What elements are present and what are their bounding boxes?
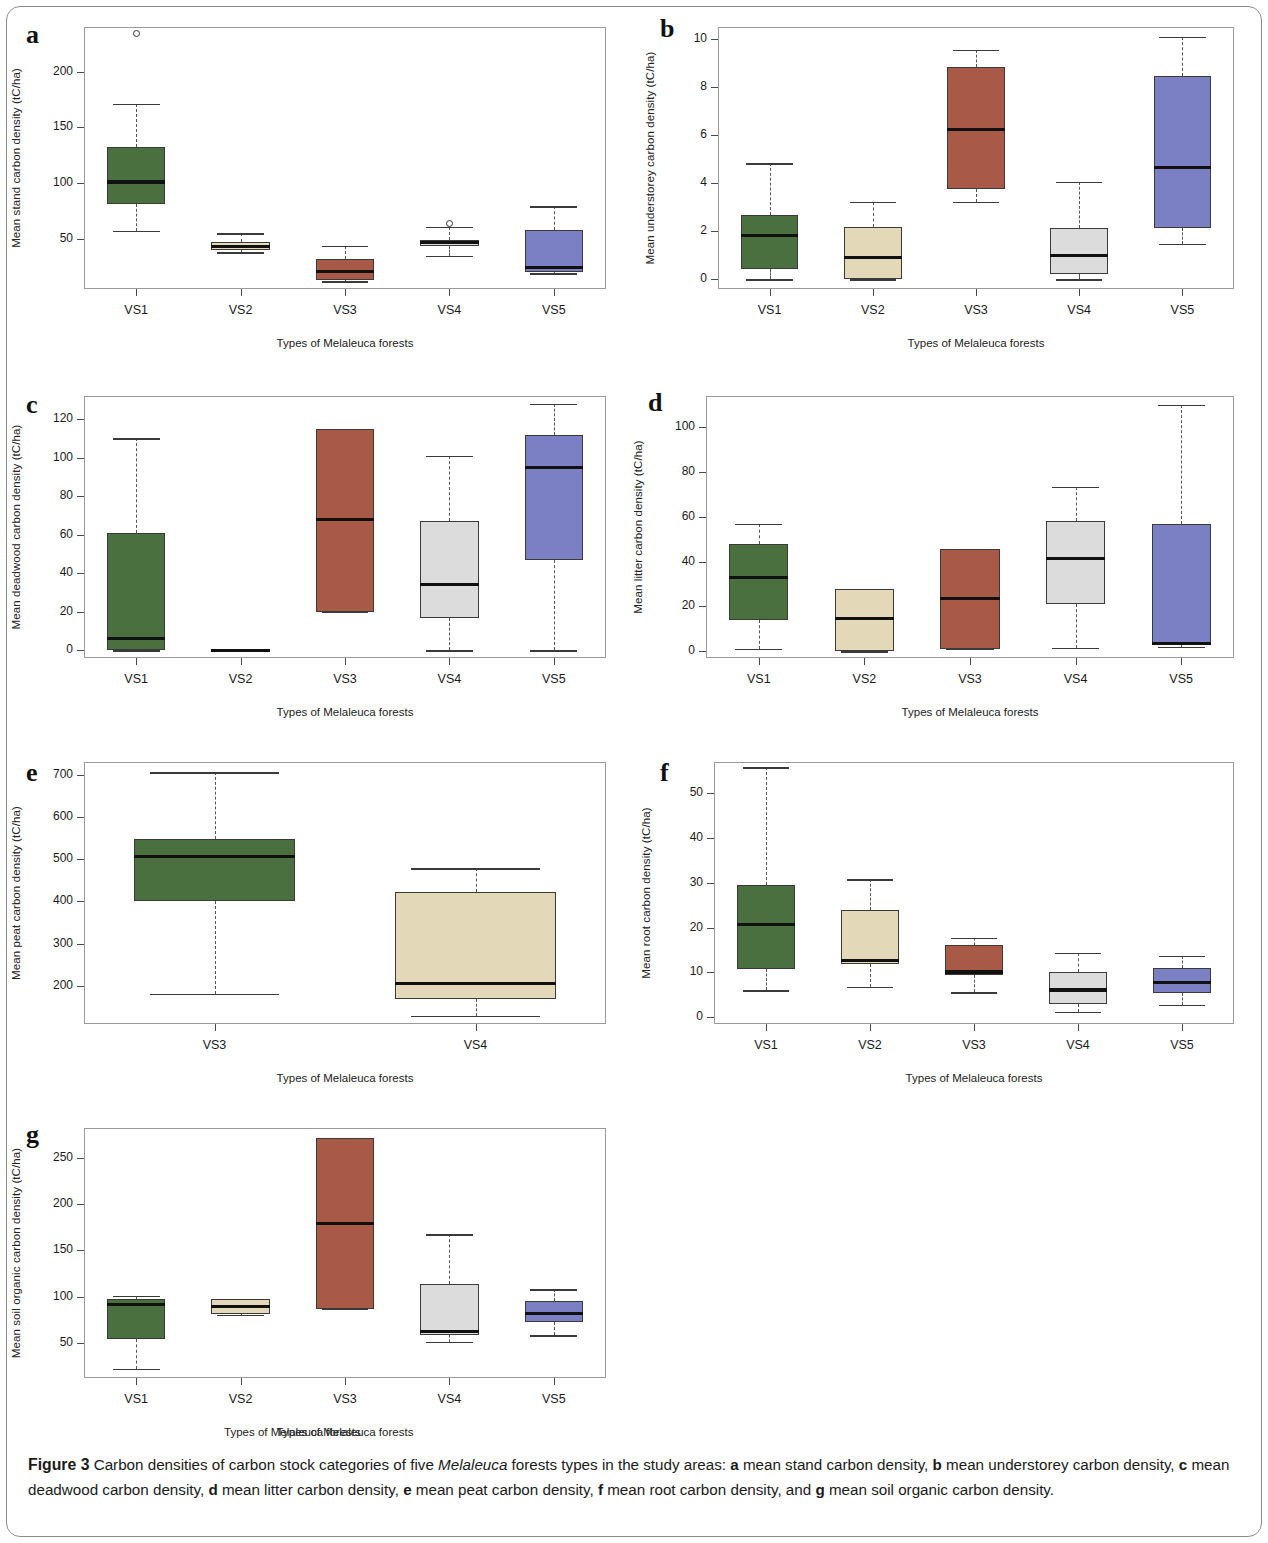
ytick-d-0	[699, 651, 706, 652]
box-b-VS3	[947, 67, 1005, 190]
ytick-label-e-1: 300	[32, 936, 73, 950]
ytick-label-f-3: 30	[662, 875, 703, 889]
ytick-label-d-2: 40	[654, 554, 695, 568]
xtick-g-0	[136, 1378, 137, 1385]
whisker-upper-c-VS5	[554, 404, 555, 435]
caption-part-11: e	[403, 1481, 411, 1498]
y-axis-label-g: Mean soil organic carbon density (tC/ha)	[10, 1148, 22, 1358]
whisker-cap-lower-a-VS4	[426, 256, 473, 257]
whisker-upper-d-VS4	[1076, 487, 1077, 522]
whisker-cap-lower-f-VS5	[1159, 1005, 1206, 1006]
xtick-c-1	[241, 658, 242, 665]
whisker-lower-b-VS1	[770, 269, 771, 280]
box-f-VS4	[1049, 972, 1107, 1003]
caption-part-1: Melaleuca	[438, 1456, 507, 1473]
panel-letter-f: f	[660, 760, 669, 786]
ytick-label-f-1: 10	[662, 964, 703, 978]
category-label-c-VS2: VS2	[201, 672, 281, 686]
box-g-VS5	[525, 1301, 583, 1322]
ytick-label-c-0: 0	[32, 642, 73, 656]
caption-part-14: mean root carbon density, and	[603, 1481, 815, 1498]
median-g-VS2	[211, 1305, 269, 1308]
whisker-lower-g-VS4	[449, 1335, 450, 1341]
caption-part-16: mean soil organic carbon density.	[825, 1481, 1054, 1498]
whisker-upper-a-VS5	[554, 206, 555, 229]
whisker-upper-c-VS1	[136, 438, 137, 532]
whisker-upper-f-VS3	[974, 938, 975, 945]
whisker-lower-b-VS5	[1182, 228, 1183, 243]
whisker-cap-upper-a-VS5	[530, 206, 577, 207]
whisker-cap-upper-d-VS5	[1158, 405, 1205, 406]
category-label-g-VS4: VS4	[409, 1392, 489, 1406]
whisker-upper-f-VS4	[1078, 953, 1079, 973]
median-e-VS3	[134, 855, 296, 858]
figure-panels-container: a50100150200Mean stand carbon density (t…	[0, 0, 1268, 1425]
whisker-upper-a-VS1	[136, 104, 137, 147]
category-label-a-VS4: VS4	[409, 303, 489, 317]
median-b-VS2	[844, 256, 902, 259]
whisker-upper-f-VS1	[766, 767, 767, 885]
whisker-cap-lower-g-VS1	[113, 1369, 160, 1370]
whisker-cap-lower-b-VS3	[953, 202, 999, 203]
ytick-c-2	[77, 573, 84, 574]
whisker-cap-upper-g-VS1	[113, 1296, 160, 1297]
plot-area-d	[706, 396, 1234, 658]
median-f-VS1	[737, 923, 795, 926]
whisker-lower-e-VS3	[215, 901, 216, 994]
panel-a: a50100150200Mean stand carbon density (t…	[0, 0, 1268, 1425]
ytick-label-e-5: 700	[32, 767, 73, 781]
plot-area-e	[84, 762, 606, 1024]
xtick-c-3	[449, 658, 450, 665]
box-a-VS5	[525, 230, 583, 272]
ytick-label-c-6: 120	[32, 411, 73, 425]
ytick-label-b-3: 6	[666, 127, 707, 141]
median-a-VS2	[211, 245, 269, 248]
plot-area-b	[718, 27, 1234, 289]
ytick-label-g-1: 100	[32, 1289, 73, 1303]
ytick-g-3	[77, 1204, 84, 1205]
box-flat-c-VS2	[211, 649, 269, 652]
category-label-a-VS2: VS2	[201, 303, 281, 317]
whisker-lower-d-VS1	[759, 620, 760, 649]
caption-part-6: mean understorey carbon density,	[942, 1456, 1179, 1473]
ytick-f-2	[707, 928, 714, 929]
xtick-b-1	[873, 289, 874, 296]
whisker-lower-d-VS5	[1181, 645, 1182, 647]
whisker-lower-c-VS4	[449, 618, 450, 651]
xtick-c-0	[136, 658, 137, 665]
category-label-g-VS2: VS2	[201, 1392, 281, 1406]
whisker-lower-e-VS4	[476, 999, 477, 1016]
box-e-VS4	[395, 892, 557, 998]
xtick-a-0	[136, 289, 137, 296]
ytick-d-1	[699, 606, 706, 607]
panel-letter-d: d	[648, 390, 662, 416]
whisker-upper-b-VS2	[873, 202, 874, 227]
y-axis-label-d: Mean litter carbon density (tC/ha)	[632, 440, 644, 613]
ytick-b-4	[711, 87, 718, 88]
box-a-VS3	[316, 259, 374, 280]
whisker-lower-a-VS5	[554, 272, 555, 273]
whisker-cap-lower-a-VS1	[113, 231, 160, 232]
xtick-e-1	[476, 1024, 477, 1031]
whisker-upper-g-VS5	[554, 1289, 555, 1301]
ytick-label-a-0: 50	[32, 231, 73, 245]
box-c-VS4	[420, 521, 478, 617]
xtick-d-0	[759, 658, 760, 665]
median-a-VS4	[420, 241, 478, 244]
whisker-cap-upper-c-VS3	[322, 429, 369, 430]
ytick-g-4	[77, 1158, 84, 1159]
x-axis-label-b: Types of Melaleuca forests	[718, 337, 1234, 349]
panel-g: g50100150200250Mean soil organic carbon …	[0, 0, 1268, 1425]
panel-d: d020406080100Mean litter carbon density …	[0, 0, 1268, 1425]
ytick-label-b-5: 10	[666, 31, 707, 45]
whisker-cap-lower-e-VS3	[150, 994, 279, 995]
category-label-b-VS5: VS5	[1142, 303, 1222, 317]
category-label-d-VS3: VS3	[930, 672, 1010, 686]
box-b-VS4	[1050, 228, 1108, 273]
ytick-label-b-1: 2	[666, 223, 707, 237]
whisker-cap-lower-f-VS2	[847, 987, 894, 988]
ytick-g-1	[77, 1297, 84, 1298]
caption-part-9: d	[208, 1481, 217, 1498]
ytick-e-3	[77, 859, 84, 860]
whisker-upper-f-VS5	[1182, 956, 1183, 968]
